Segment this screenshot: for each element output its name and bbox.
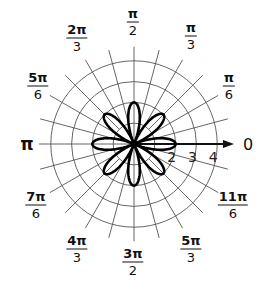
radial-tick-labels: 234 (167, 149, 218, 165)
angle-numerator: 5π (27, 71, 48, 87)
angle-label-a330: 11π6 (218, 190, 248, 221)
angle-label-a30: π6 (223, 71, 235, 102)
angle-numerator: 3π (122, 247, 143, 263)
angle-label-a240: 4π3 (66, 234, 87, 265)
angle-numerator: 2π (66, 23, 87, 39)
angle-denominator: 2 (122, 263, 143, 278)
angle-denominator: 6 (25, 206, 46, 221)
angle-numerator: 5π (180, 234, 201, 250)
angle-label-a270: 3π2 (122, 247, 143, 278)
angle-label-a120: 2π3 (66, 23, 87, 54)
radial-tick-label: 2 (167, 149, 176, 165)
grid-spoke (149, 159, 203, 213)
angle-denominator: 2 (127, 23, 139, 38)
grid-spoke (65, 159, 119, 213)
grid-spoke (149, 75, 203, 129)
angle-numerator: 4π (66, 234, 87, 250)
radial-tick-label: 4 (209, 149, 218, 165)
angle-denominator: 3 (66, 39, 87, 54)
radial-tick-label: 3 (188, 149, 197, 165)
angle-denominator: 3 (66, 250, 87, 265)
grid-spoke (65, 75, 119, 129)
angle-label-a60: π3 (185, 21, 197, 52)
angle-label-a210: 7π6 (25, 190, 46, 221)
angle-denominator: 6 (27, 87, 48, 102)
angle-denominator: 3 (180, 250, 201, 265)
angle-numerator: π (127, 7, 139, 23)
angle-label-a180: π (20, 134, 33, 154)
arrow-head-icon (223, 140, 234, 148)
angle-label-a0: 0 (243, 135, 253, 154)
angle-label-a300: 5π3 (180, 234, 201, 265)
angle-denominator: 3 (185, 37, 197, 52)
angle-denominator: 6 (218, 206, 248, 221)
angle-numerator: π (223, 71, 235, 87)
angle-numerator: 7π (25, 190, 46, 206)
angle-label-a90: π2 (127, 7, 139, 38)
polar-axis-arrow (134, 140, 234, 148)
angle-denominator: 6 (223, 87, 235, 102)
angle-label-a150: 5π6 (27, 71, 48, 102)
angle-numerator: 11π (218, 190, 248, 206)
angle-numerator: π (185, 21, 197, 37)
